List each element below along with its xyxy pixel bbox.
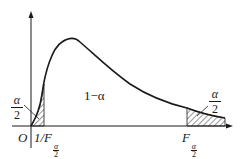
left-tail-label: α 2: [11, 94, 23, 121]
right-tail-label: α 2: [209, 88, 221, 115]
left-tail-label-den: 2: [14, 109, 20, 121]
right-critical-value-text: F: [182, 130, 190, 145]
right-tail-label-den: 2: [212, 103, 218, 115]
right-sub-den: 2: [192, 151, 196, 158]
y-axis-arrow-icon: [29, 11, 34, 18]
x-axis-arrow-icon: [226, 124, 233, 129]
center-region-label: 1−α: [84, 89, 105, 102]
left-critical-value-text: 1/F: [34, 130, 52, 145]
right-tail-label-num: α: [212, 88, 218, 100]
left-sub-den: 2: [54, 151, 58, 158]
left-tail-label-num: α: [14, 94, 20, 106]
right-critical-value-label: Fα2: [182, 131, 197, 158]
left-critical-value-label: 1/Fα2: [34, 131, 59, 158]
origin-label: O: [18, 131, 27, 144]
